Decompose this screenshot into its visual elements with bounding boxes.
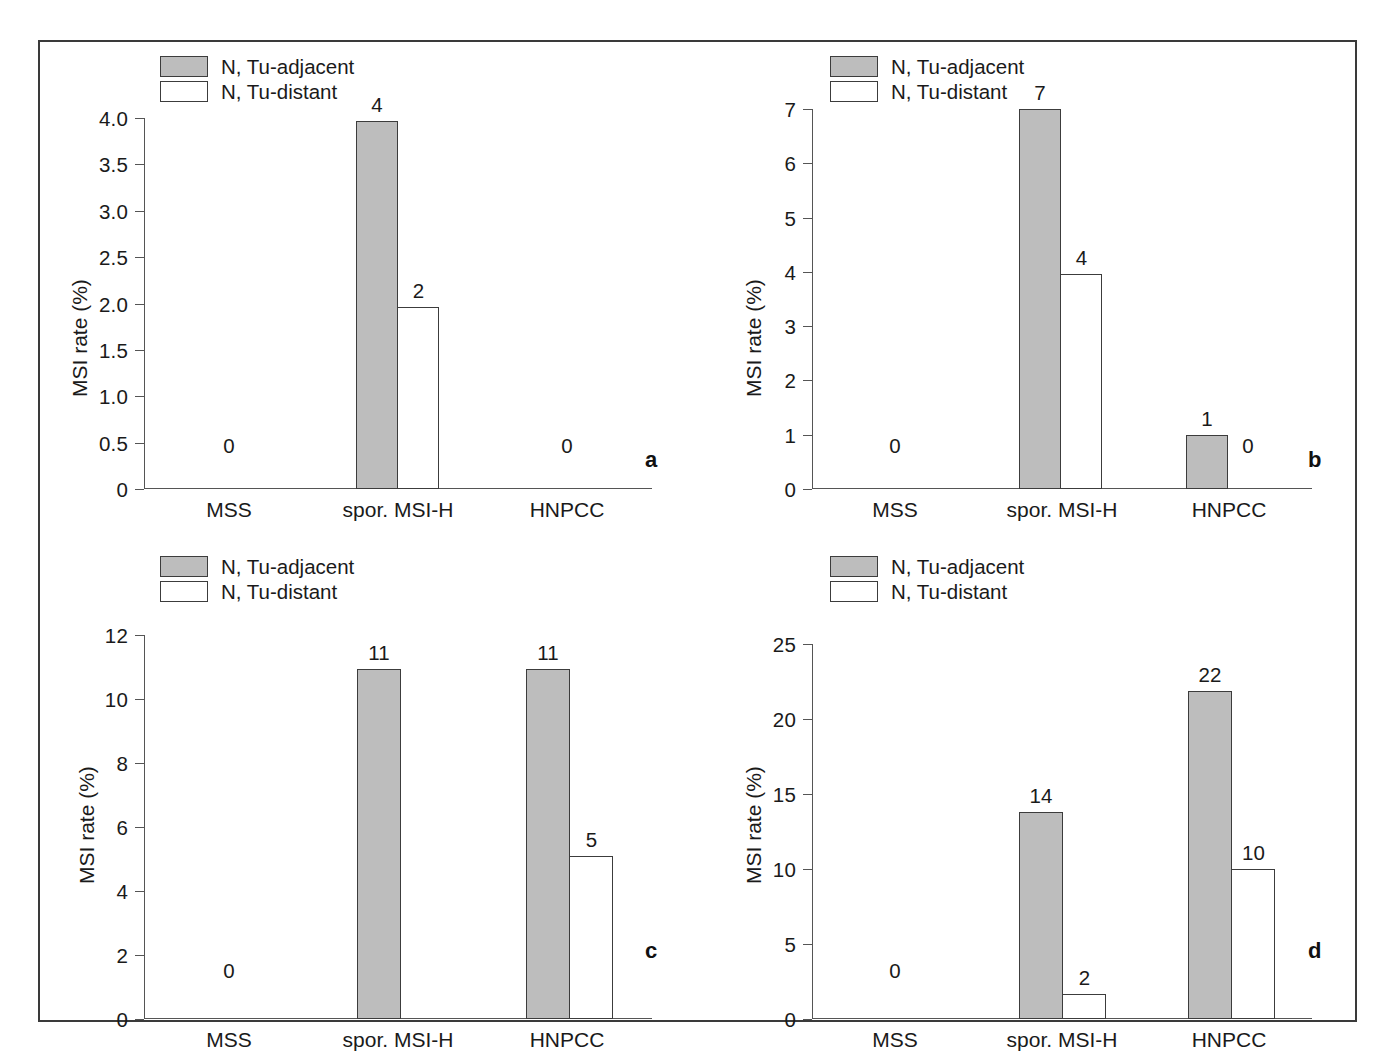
y-tick: 0.5 (135, 443, 144, 444)
y-tick: 0 (803, 489, 812, 490)
y-axis-line (144, 118, 145, 489)
legend-row-distant: N, Tu-distant (160, 579, 354, 604)
panel-letter-d: d (1308, 938, 1321, 964)
y-tick: 10 (135, 699, 144, 700)
bar-value-spor-adjacent: 11 (368, 641, 389, 665)
y-tick-label: 10 (773, 858, 796, 882)
y-tick: 20 (803, 719, 812, 720)
bar-value-spor-distant: 2 (413, 279, 424, 303)
panel-letter-b: b (1308, 447, 1321, 473)
bar-hnpcc-adjacent: 11 (526, 669, 570, 1019)
y-tick-label: 0.5 (99, 432, 128, 456)
x-category-label-spor: spor. MSI-H (343, 498, 454, 522)
y-tick: 12 (135, 635, 144, 636)
legend-panel-a: N, Tu-adjacent N, Tu-distant (160, 54, 354, 104)
panel-c: N, Tu-adjacent N, Tu-distant MSI rate (%… (40, 534, 700, 1024)
bar-value-mss-adjacent: 0 (223, 959, 234, 983)
bar-value-spor-distant: 2 (1079, 966, 1090, 990)
x-category-label-spor: spor. MSI-H (343, 1028, 454, 1052)
y-tick-label: 2 (784, 369, 796, 393)
bar-value-hnpcc-distant: 10 (1242, 841, 1265, 865)
y-tick-label: 1.0 (99, 385, 128, 409)
y-tick: 6 (135, 827, 144, 828)
legend-label-adjacent: N, Tu-adjacent (221, 55, 354, 79)
y-tick-label: 4 (116, 880, 128, 904)
y-axis-line (812, 644, 813, 1019)
y-tick: 2 (803, 380, 812, 381)
y-tick: 4 (135, 891, 144, 892)
y-axis-line (812, 109, 813, 489)
legend-row-distant: N, Tu-distant (830, 579, 1024, 604)
y-tick-label: 2.0 (99, 293, 128, 317)
legend-swatch-distant-icon (830, 81, 878, 102)
legend-row-adjacent: N, Tu-adjacent (830, 54, 1024, 79)
y-tick-label: 0 (116, 1008, 128, 1032)
bar-value-hnpcc-adjacent: 1 (1201, 407, 1212, 431)
y-tick: 2 (135, 955, 144, 956)
legend-row-distant: N, Tu-distant (160, 79, 354, 104)
bar-value-mss-adjacent: 0 (889, 959, 900, 983)
legend-label-distant: N, Tu-distant (221, 80, 337, 104)
y-tick-label: 0 (784, 1008, 796, 1032)
panel-b: N, Tu-adjacent N, Tu-distant MSI rate (%… (700, 42, 1359, 534)
y-axis-label-panel-b: MSI rate (%) (742, 279, 766, 397)
y-tick: 0 (803, 1019, 812, 1020)
y-tick-label: 15 (773, 783, 796, 807)
y-tick-label: 20 (773, 708, 796, 732)
bar-value-spor-adjacent: 7 (1034, 81, 1045, 105)
y-tick-label: 5 (784, 207, 796, 231)
legend-row-adjacent: N, Tu-adjacent (160, 554, 354, 579)
panel-d: N, Tu-adjacent N, Tu-distant MSI rate (%… (700, 534, 1359, 1024)
legend-label-distant: N, Tu-distant (891, 580, 1007, 604)
y-tick: 6 (803, 163, 812, 164)
y-tick-label: 6 (116, 816, 128, 840)
bar-value-hnpcc-adjacent: 22 (1199, 663, 1222, 687)
y-tick: 3.0 (135, 211, 144, 212)
y-tick: 7 (803, 109, 812, 110)
bar-value-mss-adjacent: 0 (223, 434, 234, 458)
y-tick: 5 (803, 944, 812, 945)
y-tick: 3 (803, 326, 812, 327)
bar-hnpcc-adjacent: 22 (1188, 691, 1232, 1020)
x-category-label-spor: spor. MSI-H (1007, 498, 1118, 522)
y-tick: 5 (803, 218, 812, 219)
y-tick: 15 (803, 794, 812, 795)
bar-spor-adjacent: 4 (356, 121, 398, 489)
legend-label-adjacent: N, Tu-adjacent (891, 555, 1024, 579)
legend-swatch-distant-icon (160, 581, 208, 602)
x-category-label-hnpcc: HNPCC (530, 498, 605, 522)
legend-swatch-distant-icon (830, 581, 878, 602)
legend-swatch-distant-icon (160, 81, 208, 102)
y-tick: 10 (803, 869, 812, 870)
plot-area-panel-b: 0 1 2 3 4 5 6 7 MSS spor. MSI-H HNPCC 0 … (812, 109, 1312, 489)
y-axis-label-panel-a: MSI rate (%) (68, 279, 92, 397)
legend-row-adjacent: N, Tu-adjacent (160, 54, 354, 79)
legend-panel-d: N, Tu-adjacent N, Tu-distant (830, 554, 1024, 604)
x-category-label-mss: MSS (206, 498, 252, 522)
panel-letter-c: c (645, 938, 657, 964)
plot-area-panel-d: 0 5 10 15 20 25 MSS spor. MSI-H HNPCC 0 … (812, 644, 1312, 1019)
y-tick-label: 8 (116, 752, 128, 776)
figure-frame: N, Tu-adjacent N, Tu-distant MSI rate (%… (38, 40, 1357, 1022)
y-tick-label: 2.5 (99, 246, 128, 270)
y-tick: 8 (135, 763, 144, 764)
bar-value-spor-adjacent: 14 (1030, 784, 1053, 808)
legend-label-adjacent: N, Tu-adjacent (221, 555, 354, 579)
legend-panel-c: N, Tu-adjacent N, Tu-distant (160, 554, 354, 604)
y-tick: 0 (135, 489, 144, 490)
y-axis-label-panel-c: MSI rate (%) (75, 766, 99, 884)
y-tick: 1.0 (135, 396, 144, 397)
legend-swatch-adjacent-icon (830, 556, 878, 577)
bar-spor-adjacent: 11 (357, 669, 401, 1019)
bar-value-hnpcc-adjacent: 0 (561, 434, 572, 458)
y-tick-label: 12 (105, 624, 128, 648)
y-tick: 25 (803, 644, 812, 645)
bar-spor-adjacent: 14 (1019, 812, 1063, 1019)
plot-area-panel-a: 0 0.5 1.0 1.5 2.0 2.5 3.0 3.5 4.0 MSS sp… (144, 118, 652, 489)
y-tick-label: 3.5 (99, 153, 128, 177)
y-tick: 4.0 (135, 118, 144, 119)
y-tick: 2.5 (135, 257, 144, 258)
y-tick: 4 (803, 272, 812, 273)
y-tick: 1.5 (135, 350, 144, 351)
bar-spor-distant: 2 (397, 307, 439, 489)
